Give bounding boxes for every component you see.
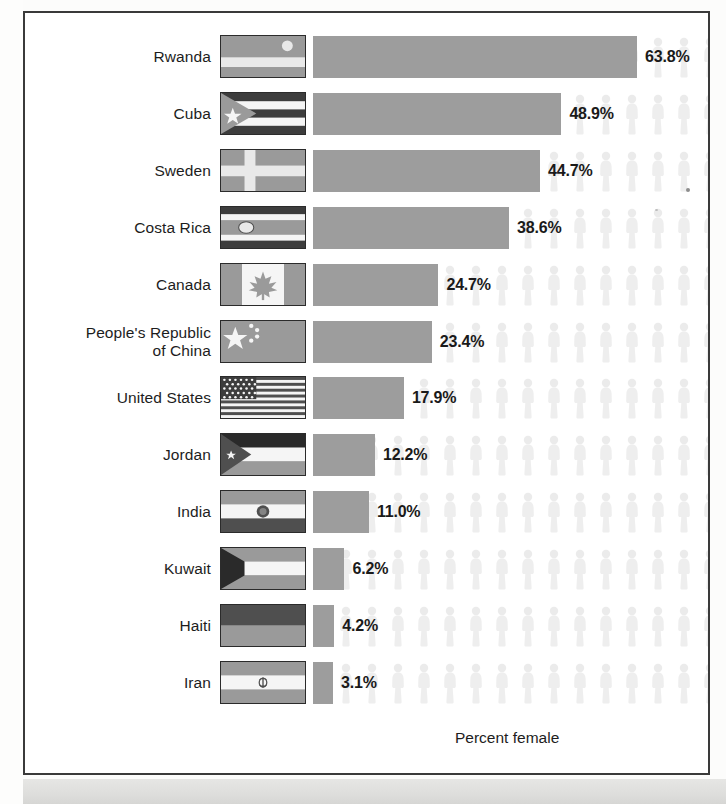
country-label-line: Iran [25,674,211,692]
flag-sweden [220,149,306,192]
bar [313,207,509,249]
bar-row: Costa Rica38.6% [25,206,708,250]
flag-canada [220,263,306,306]
country-label-line: Haiti [25,617,211,635]
scan-speck [686,188,690,192]
page-bottom-strip [23,779,726,804]
bar [313,491,369,533]
bar-row: Haiti4.2% [25,604,708,648]
country-label: Haiti [25,617,211,635]
flag-india [220,490,306,533]
scan-speck [655,209,658,211]
country-label: Costa Rica [25,219,211,237]
bar-row: Cuba48.9% [25,92,708,136]
bar [313,150,540,192]
bar-value-label: 6.2% [352,560,388,578]
country-label: Kuwait [25,560,211,578]
bar [313,662,333,704]
country-label: Rwanda [25,48,211,66]
country-label-line: Costa Rica [25,219,211,237]
flag-kuwait [220,547,306,590]
bar-row: Iran3.1% [25,661,708,705]
flag-haiti [220,604,306,647]
bar-row: Rwanda63.8% [25,35,708,79]
bar-value-label: 4.2% [342,617,378,635]
bar-value-label: 48.9% [569,105,613,123]
bar-value-label: 63.8% [645,48,689,66]
country-label: Iran [25,674,211,692]
country-label: United States [25,389,211,407]
country-label-line: Canada [25,275,211,293]
bar [313,605,334,647]
country-label-line: People's Republic [25,323,211,341]
bar-row: People's Republicof China23.4% [25,320,708,364]
bar [313,264,438,306]
bar-value-label: 24.7% [446,276,490,294]
country-label: Cuba [25,105,211,123]
country-label: People's Republicof China [25,323,211,360]
flag-china [220,320,306,363]
bar-value-label: 12.2% [383,446,427,464]
bar-value-label: 38.6% [517,219,561,237]
country-label-line: Rwanda [25,48,211,66]
flag-united-states [220,376,306,419]
page-left-margin [0,0,23,804]
country-label-line: Jordan [25,446,211,464]
flag-jordan [220,433,306,476]
bar [313,93,561,135]
bar [313,321,432,363]
country-label: India [25,503,211,521]
chart-plot-area: Rwanda63.8%Cuba48.9%Sweden44.7%Costa Ric… [25,13,708,773]
bar-value-label: 23.4% [440,333,484,351]
bar-value-label: 11.0% [377,503,421,521]
bar [313,434,375,476]
bar-row: Jordan12.2% [25,433,708,477]
country-label-line: Sweden [25,162,211,180]
flag-cuba [220,92,306,135]
bar-row: Canada24.7% [25,263,708,307]
country-label: Jordan [25,446,211,464]
bar-value-label: 3.1% [341,674,377,692]
bar-value-label: 44.7% [548,162,592,180]
flag-costa-rica [220,206,306,249]
chart-figure-frame: Rwanda63.8%Cuba48.9%Sweden44.7%Costa Ric… [23,11,710,775]
country-label-line: Kuwait [25,560,211,578]
country-label-line: Cuba [25,105,211,123]
country-label-line: of China [25,342,211,360]
bar-row: United States17.9% [25,376,708,420]
bar [313,548,344,590]
bar [313,377,404,419]
country-label-line: United States [25,389,211,407]
x-axis-caption: Percent female [455,729,559,747]
bar-row: Sweden44.7% [25,149,708,193]
bar-row: India11.0% [25,490,708,534]
bar-value-label: 17.9% [412,389,456,407]
country-label-line: India [25,503,211,521]
bar-row: Kuwait6.2% [25,547,708,591]
bar [313,36,637,78]
country-label: Sweden [25,162,211,180]
flag-rwanda [220,35,306,78]
country-label: Canada [25,275,211,293]
flag-iran [220,661,306,704]
